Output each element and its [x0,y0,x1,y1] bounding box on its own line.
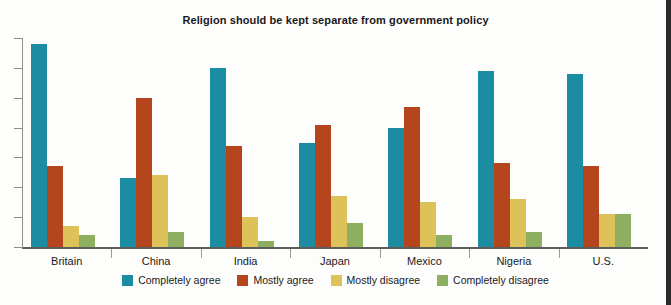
legend-label: Completely disagree [453,274,549,286]
bar[interactable] [478,71,494,247]
bar[interactable] [510,199,526,247]
legend-label: Mostly agree [253,274,313,286]
legend-label: Completely agree [138,274,220,286]
bar[interactable] [136,98,152,247]
bar-group-mexico [388,38,452,247]
legend-swatch-icon [122,275,133,286]
bar[interactable] [226,146,242,248]
x-axis-label-india: India [201,255,290,267]
bar[interactable] [120,178,136,247]
x-axis-label-china: China [111,255,200,267]
bar[interactable] [526,232,542,247]
bar[interactable] [152,175,168,247]
bar[interactable] [347,223,363,247]
plot-area [22,38,648,247]
page-edge-border [666,0,671,305]
bar-group-china [120,38,184,247]
bar[interactable] [567,74,583,247]
x-axis-label-us: U.S. [559,255,648,267]
bar[interactable] [315,125,331,247]
bar[interactable] [420,202,436,247]
legend-item[interactable]: Completely agree [122,274,220,286]
bar[interactable] [494,163,510,247]
x-axis-label-nigeria: Nigeria [469,255,558,267]
bar[interactable] [63,226,79,247]
legend-label: Mostly disagree [347,274,421,286]
bar-group-britain [31,38,95,247]
legend-swatch-icon [437,275,448,286]
legend-item[interactable]: Mostly disagree [331,274,421,286]
x-axis-label-japan: Japan [290,255,379,267]
bar[interactable] [436,235,452,247]
bar[interactable] [258,241,274,247]
legend-item[interactable]: Mostly agree [237,274,313,286]
bar[interactable] [599,214,615,247]
chart-legend: Completely agreeMostly agreeMostly disag… [0,274,671,286]
bar[interactable] [331,196,347,247]
bar-group-us [567,38,631,247]
chart-title: Religion should be kept separate from go… [0,14,671,26]
bar[interactable] [31,44,47,247]
bar-group-nigeria [478,38,542,247]
bar[interactable] [47,166,63,247]
x-axis-line [22,247,648,249]
bar-group-japan [299,38,363,247]
chart-container: Religion should be kept separate from go… [0,0,671,305]
bar[interactable] [79,235,95,247]
bar[interactable] [583,166,599,247]
x-axis-label-mexico: Mexico [380,255,469,267]
bar[interactable] [299,143,315,248]
bar[interactable] [404,107,420,247]
bar[interactable] [210,68,226,247]
y-axis-tick [14,247,23,248]
bar[interactable] [388,128,404,247]
bar[interactable] [242,217,258,247]
legend-swatch-icon [331,275,342,286]
legend-swatch-icon [237,275,248,286]
legend-item[interactable]: Completely disagree [437,274,549,286]
bar-group-india [210,38,274,247]
bar[interactable] [615,214,631,247]
bar[interactable] [168,232,184,247]
x-axis-label-britain: Britain [22,255,111,267]
